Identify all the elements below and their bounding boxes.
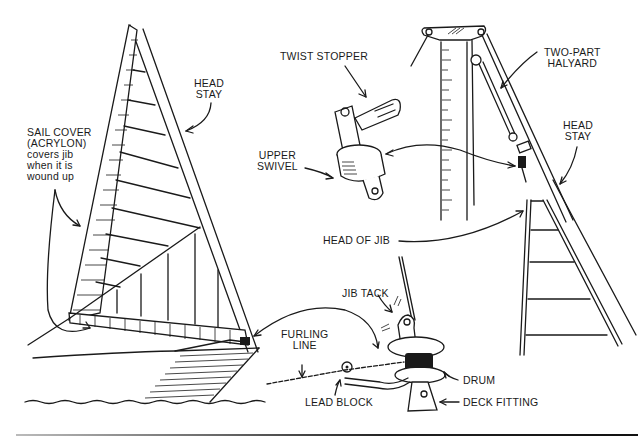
bottom-rule-divider [16,434,638,436]
label-sail-cover: SAIL COVER (ACRYLON) covers jib when it … [27,127,92,182]
label-jib-tack: JIB TACK [342,288,389,299]
label-head-of-jib: HEAD OF JIB [323,235,390,246]
twist-stopper-swivel-illustration [305,66,400,200]
hull-hatching [145,353,253,398]
label-line: wound up [27,171,92,182]
label-line: HALYARD [544,58,601,69]
label-head-stay-right: HEAD STAY [563,120,593,142]
label-head-stay-left: HEAD STAY [194,78,224,100]
label-deck-fitting: DECK FITTING [463,397,538,408]
label-furling-line: FURLING LINE [281,329,329,351]
head-of-jib-illustration [399,180,636,355]
label-drum: DRUM [463,375,495,386]
label-line: SWIVEL [257,161,298,172]
label-lead-block: LEAD BLOCK [305,397,373,408]
label-twist-stopper: TWIST STOPPER [280,51,368,62]
label-two-part-halyard: TWO-PART HALYARD [544,47,601,69]
label-line: LINE [281,340,329,351]
mast-hatching [442,50,452,210]
label-upper-swivel: UPPER SWIVEL [257,150,298,172]
label-line: STAY [563,131,593,142]
label-line: STAY [194,89,224,100]
sailboat-bow-illustration [25,25,265,404]
